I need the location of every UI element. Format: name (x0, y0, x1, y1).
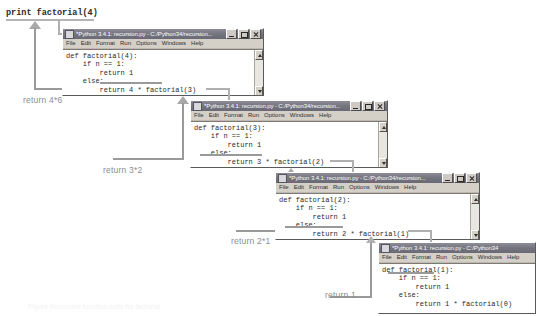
menu-item-file[interactable]: File (279, 183, 289, 192)
scroll-up-icon[interactable] (471, 194, 479, 204)
return-label-4: return 4*6 (23, 95, 62, 105)
window-title: *Python 3.4.1: recursion.py - C:/Python3… (289, 173, 440, 183)
window-controls[interactable] (226, 29, 261, 39)
minimize-button[interactable] (442, 173, 453, 183)
maximize-button[interactable] (362, 101, 373, 111)
menu-item-edit[interactable]: Edit (209, 111, 219, 120)
call-line-horizontal-4 (408, 230, 432, 232)
idle-window-factorial-2[interactable]: *Python 3.4.1: recursion.py - C:/Python3… (275, 172, 480, 240)
menu-item-edit[interactable]: Edit (81, 39, 91, 48)
editor-area[interactable]: def factorial(4): if n == 1: return 1 el… (63, 49, 263, 96)
idle-window-factorial-3[interactable]: *Python 3.4.1: recursion.py - C:/Python3… (190, 100, 388, 168)
code-text[interactable]: def factorial(2): if n == 1: return 1 el… (276, 194, 470, 240)
return-line-vertical-2 (182, 103, 184, 160)
return-line-vertical-4 (370, 243, 372, 298)
scroll-up-icon[interactable] (255, 50, 263, 60)
minimize-button[interactable] (226, 29, 237, 39)
editor-area[interactable]: def factorial(1): if n == 1: return 1 el… (379, 263, 535, 314)
return-line-vertical-1 (34, 28, 36, 90)
titlebar[interactable]: *Python 3.4.1: recursion.py - C:/Python3… (379, 243, 535, 253)
menu-item-windows[interactable]: Windows (290, 111, 314, 120)
close-button[interactable] (250, 29, 261, 39)
menu-item-run[interactable]: Run (120, 39, 131, 48)
menu-item-help[interactable]: Help (404, 183, 416, 192)
scroll-down-icon[interactable] (471, 230, 479, 240)
menu-item-help[interactable]: Help (319, 111, 331, 120)
figure-caption: Figure Recursive function calls for fact… (28, 303, 160, 310)
return-line-horizontal-2 (113, 158, 183, 160)
python-icon (65, 30, 74, 39)
window-title: *Python 3.4.1: recursion.py - C:/Python3… (392, 243, 534, 253)
vertical-scrollbar[interactable] (254, 50, 263, 96)
menu-bar[interactable]: File Edit Format Run Options Windows Hel… (63, 39, 263, 49)
menu-bar[interactable]: File Edit Format Run Options Windows Hel… (191, 111, 387, 121)
scroll-down-icon[interactable] (255, 86, 263, 96)
return-label-2: return 2*1 (231, 236, 270, 246)
call-line-horizontal-2 (206, 88, 230, 90)
menu-item-format[interactable]: Format (96, 39, 115, 48)
menu-item-options[interactable]: Options (264, 111, 285, 120)
top-expression-label: print factorial(4) (6, 8, 98, 18)
menu-item-format[interactable]: Format (412, 253, 431, 262)
scroll-down-icon[interactable] (379, 158, 387, 168)
menu-item-edit[interactable]: Edit (294, 183, 304, 192)
menu-item-options[interactable]: Options (136, 39, 157, 48)
menu-item-run[interactable]: Run (436, 253, 447, 262)
python-icon (278, 174, 287, 183)
return-arrow-to-win3 (366, 236, 376, 243)
menu-item-edit[interactable]: Edit (397, 253, 407, 262)
minimize-button[interactable] (350, 101, 361, 111)
menu-item-help[interactable]: Help (191, 39, 203, 48)
vertical-scrollbar[interactable] (470, 194, 479, 240)
idle-window-factorial-4[interactable]: *Python 3.4.1: recursion.py - C:/Python3… (62, 28, 264, 96)
menu-bar[interactable]: File Edit Format Run Options Windows Hel… (379, 253, 535, 263)
menu-item-file[interactable]: File (382, 253, 392, 262)
idle-window-factorial-1[interactable]: *Python 3.4.1: recursion.py - C:/Python3… (378, 242, 536, 314)
return-label-3: return 3*2 (103, 165, 142, 175)
editor-area[interactable]: def factorial(3): if n == 1: return 1 el… (191, 121, 387, 168)
menu-item-help[interactable]: Help (507, 253, 519, 262)
editor-area[interactable]: def factorial(2): if n == 1: return 1 el… (276, 193, 479, 240)
menu-item-windows[interactable]: Windows (375, 183, 399, 192)
menu-item-file[interactable]: File (66, 39, 76, 48)
maximize-button[interactable] (454, 173, 465, 183)
python-icon (381, 244, 390, 253)
return-tap-line-1 (100, 82, 162, 84)
window-title: *Python 3.4.1: recursion.py - C:/Python3… (204, 101, 348, 111)
menu-item-format[interactable]: Format (224, 111, 243, 120)
titlebar[interactable]: *Python 3.4.1: recursion.py - C:/Python3… (276, 173, 479, 183)
call-line-vertical-1 (58, 19, 60, 34)
maximize-button[interactable] (238, 29, 249, 39)
window-controls[interactable] (350, 101, 385, 111)
menu-item-format[interactable]: Format (309, 183, 328, 192)
return-label-1: return 1 (325, 290, 356, 300)
menu-item-windows[interactable]: Windows (162, 39, 186, 48)
menu-item-run[interactable]: Run (248, 111, 259, 120)
close-button[interactable] (374, 101, 385, 111)
window-title: *Python 3.4.1: recursion.py - C:/Python3… (76, 29, 224, 39)
titlebar[interactable]: *Python 3.4.1: recursion.py - C:/Python3… (63, 29, 263, 39)
return-tap-line-4 (388, 272, 434, 274)
close-button[interactable] (466, 173, 477, 183)
call-line-horizontal-3 (330, 160, 354, 162)
menu-item-windows[interactable]: Windows (478, 253, 502, 262)
return-tap-line-3 (285, 226, 343, 228)
top-expression-underline (6, 19, 94, 21)
menu-bar[interactable]: File Edit Format Run Options Windows Hel… (276, 183, 479, 193)
return-tap-line-2 (200, 154, 262, 156)
menu-item-options[interactable]: Options (349, 183, 370, 192)
menu-item-run[interactable]: Run (333, 183, 344, 192)
scroll-up-icon[interactable] (379, 122, 387, 132)
vertical-scrollbar[interactable] (378, 122, 387, 168)
python-icon (193, 102, 202, 111)
menu-item-file[interactable]: File (194, 111, 204, 120)
titlebar[interactable]: *Python 3.4.1: recursion.py - C:/Python3… (191, 101, 387, 111)
menu-item-options[interactable]: Options (452, 253, 473, 262)
window-controls[interactable] (442, 173, 477, 183)
